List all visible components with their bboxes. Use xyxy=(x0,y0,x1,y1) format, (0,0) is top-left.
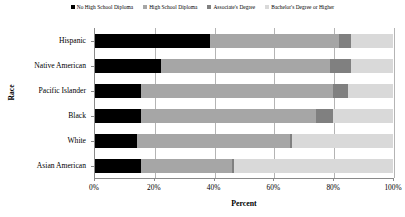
bar-row xyxy=(95,59,393,73)
x-axis-tick-label: 0% xyxy=(74,183,114,192)
chart-legend: No High School DiplomaHigh School Diplom… xyxy=(0,4,405,10)
x-axis-tick xyxy=(154,178,155,181)
legend-item: Associate's Degree xyxy=(207,4,255,10)
bar-segment xyxy=(210,34,340,48)
y-axis-label: Black xyxy=(68,111,86,120)
x-axis-tick xyxy=(393,178,394,181)
legend-swatch-icon xyxy=(207,5,211,9)
bar-segment xyxy=(330,59,351,73)
bar-segment xyxy=(333,84,348,98)
x-axis-tick-label: 20% xyxy=(134,183,174,192)
bar-row xyxy=(95,159,393,173)
x-axis-tick-label: 80% xyxy=(313,183,353,192)
bar-row xyxy=(95,109,393,123)
x-axis-tick xyxy=(273,178,274,181)
legend-item: No High School Diploma xyxy=(71,4,133,10)
y-axis-label: White xyxy=(67,136,86,145)
legend-label: High School Diploma xyxy=(149,4,197,10)
legend-label: No High School Diploma xyxy=(77,4,133,10)
y-axis-label: Hispanic xyxy=(59,36,86,45)
y-axis-label: Pacific Islander xyxy=(39,86,86,95)
bar-row xyxy=(95,84,393,98)
plot-area xyxy=(94,28,393,178)
bar-segment xyxy=(95,34,210,48)
bar-segment xyxy=(95,84,141,98)
x-axis-ticks xyxy=(94,178,394,182)
bar-segment xyxy=(141,109,315,123)
legend-swatch-icon xyxy=(265,5,269,9)
y-axis-title: Race xyxy=(7,73,16,113)
bar-row xyxy=(95,34,393,48)
x-axis-tick-label: 100% xyxy=(373,183,405,192)
bar-segment xyxy=(234,159,393,173)
gridline xyxy=(394,28,395,178)
bar-segment xyxy=(348,84,393,98)
y-axis-label: Native American xyxy=(34,61,86,70)
bar-segment xyxy=(351,59,393,73)
bar-segment xyxy=(316,109,334,123)
legend-swatch-icon xyxy=(143,5,147,9)
bar-segment xyxy=(351,34,393,48)
bar-row xyxy=(95,134,393,148)
bar-segment xyxy=(95,134,137,148)
x-axis-tick xyxy=(94,178,95,181)
bar-segment xyxy=(141,84,333,98)
x-axis-title: Percent xyxy=(94,199,394,208)
x-axis-tick-label: 60% xyxy=(253,183,293,192)
stacked-bar-chart: No High School DiplomaHigh School Diplom… xyxy=(0,0,405,217)
bar-segment xyxy=(141,159,232,173)
bar-segment xyxy=(95,59,161,73)
bar-segment xyxy=(95,109,141,123)
legend-label: Bachelor's Degree or Higher xyxy=(271,4,334,10)
legend-swatch-icon xyxy=(71,5,75,9)
bar-segment xyxy=(333,109,393,123)
x-axis-tick xyxy=(333,178,334,181)
bars-layer xyxy=(95,28,393,178)
legend-item: High School Diploma xyxy=(143,4,197,10)
bar-segment xyxy=(137,134,290,148)
x-axis-tick xyxy=(214,178,215,181)
y-axis-label: Asian American xyxy=(37,161,86,170)
legend-item: Bachelor's Degree or Higher xyxy=(265,4,334,10)
bar-segment xyxy=(339,34,351,48)
bar-segment xyxy=(292,134,393,148)
bar-segment xyxy=(161,59,331,73)
legend-label: Associate's Degree xyxy=(213,4,255,10)
bar-segment xyxy=(95,159,141,173)
x-axis-tick-labels: 0%20%40%60%80%100% xyxy=(0,183,405,193)
x-axis-tick-label: 40% xyxy=(194,183,234,192)
